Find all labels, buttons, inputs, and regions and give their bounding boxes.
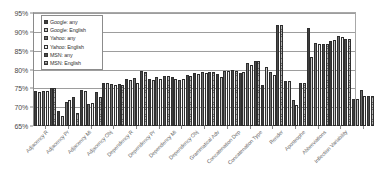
bar bbox=[106, 83, 109, 126]
bar-group bbox=[193, 13, 216, 126]
bar-group bbox=[352, 13, 374, 126]
bar bbox=[329, 41, 332, 126]
bar bbox=[231, 70, 234, 126]
bar bbox=[337, 36, 340, 126]
bar bbox=[318, 44, 321, 126]
bar bbox=[314, 43, 317, 126]
legend-swatch-icon bbox=[44, 45, 48, 49]
bar bbox=[360, 90, 363, 126]
bar bbox=[261, 85, 264, 126]
legend-label: MSN: English bbox=[50, 60, 81, 66]
x-label-slot: Adjacency R bbox=[34, 128, 55, 177]
bar bbox=[242, 72, 245, 126]
bar bbox=[292, 100, 295, 126]
bar bbox=[254, 61, 257, 126]
legend-label: MSN: any bbox=[50, 52, 72, 58]
y-tick-label: 65% bbox=[15, 123, 28, 130]
bar-group bbox=[238, 13, 261, 126]
bar bbox=[227, 71, 230, 126]
bar bbox=[87, 104, 90, 126]
bar bbox=[341, 37, 344, 126]
bar-group bbox=[125, 13, 148, 126]
bar bbox=[223, 71, 226, 126]
bar-group bbox=[261, 13, 284, 126]
legend-label: Yahoo: English bbox=[50, 44, 84, 50]
bar bbox=[239, 73, 242, 126]
y-tick-label: 85% bbox=[15, 47, 28, 54]
legend-item: MSN: any bbox=[44, 51, 100, 59]
legend-label: Google: English bbox=[50, 27, 86, 33]
legend-swatch-icon bbox=[44, 36, 48, 40]
bar bbox=[333, 40, 336, 126]
x-tick-mark bbox=[363, 126, 364, 129]
bar bbox=[352, 99, 355, 127]
bar bbox=[42, 91, 45, 126]
x-axis-labels: Adjacency RAdjacency PrAdjacency MiAdjac… bbox=[34, 128, 355, 177]
bar bbox=[307, 28, 310, 126]
bar bbox=[171, 77, 174, 126]
y-tick-label: 70% bbox=[15, 104, 28, 111]
bar bbox=[208, 72, 211, 126]
bar bbox=[152, 80, 155, 126]
bar bbox=[371, 96, 374, 126]
bar bbox=[197, 74, 200, 126]
legend-item: MSN: English bbox=[44, 59, 100, 67]
bar bbox=[65, 102, 68, 126]
bar bbox=[129, 80, 132, 126]
bar bbox=[367, 96, 370, 126]
y-axis: 95%90%85%80%75%70%65% bbox=[0, 0, 33, 132]
bar-group bbox=[216, 13, 239, 126]
x-label-slot: Concatenation Type bbox=[248, 128, 269, 177]
bar-group bbox=[102, 13, 125, 126]
bar-group bbox=[170, 13, 193, 126]
bar bbox=[288, 81, 291, 126]
bar bbox=[322, 44, 325, 126]
legend-swatch-icon bbox=[44, 20, 48, 24]
bar bbox=[118, 84, 121, 126]
bar bbox=[61, 116, 64, 126]
bar bbox=[125, 79, 128, 126]
y-tick-label: 80% bbox=[15, 66, 28, 73]
bar bbox=[276, 25, 279, 126]
bar bbox=[57, 111, 60, 126]
x-label-slot: Render bbox=[269, 128, 290, 177]
legend-swatch-icon bbox=[44, 61, 48, 65]
bar bbox=[201, 72, 204, 126]
bar bbox=[34, 91, 37, 126]
bar bbox=[246, 63, 249, 126]
bar bbox=[356, 99, 359, 126]
legend-swatch-icon bbox=[44, 53, 48, 57]
bar bbox=[220, 77, 223, 126]
bar-group bbox=[284, 13, 307, 126]
y-tick-label: 90% bbox=[15, 28, 28, 35]
legend-item: Google: any bbox=[44, 18, 100, 26]
bar-group bbox=[147, 13, 170, 126]
bar bbox=[310, 57, 313, 126]
bar bbox=[114, 85, 117, 126]
bar bbox=[363, 96, 366, 126]
bar bbox=[193, 73, 196, 126]
bar bbox=[265, 67, 268, 126]
bar bbox=[273, 75, 276, 126]
legend-item: Yahoo: English bbox=[44, 43, 100, 51]
bar bbox=[250, 65, 253, 126]
bar bbox=[84, 91, 87, 126]
legend-label: Yahoo: any bbox=[50, 35, 75, 41]
bar bbox=[295, 105, 298, 126]
bar bbox=[344, 39, 347, 126]
bar bbox=[163, 76, 166, 126]
y-tick-label: 75% bbox=[15, 85, 28, 92]
x-label-slot: Inflection Variability bbox=[334, 128, 355, 177]
bar bbox=[155, 77, 158, 126]
bar bbox=[38, 92, 41, 126]
bar bbox=[178, 80, 181, 126]
y-tick-label: 95% bbox=[15, 10, 28, 17]
bar bbox=[50, 88, 53, 126]
bar bbox=[159, 79, 162, 126]
bar bbox=[284, 81, 287, 126]
x-label-slot: Adjacency Pr bbox=[55, 128, 76, 177]
bar bbox=[182, 79, 185, 126]
bar bbox=[133, 78, 136, 126]
x-axis-tick-label: Render bbox=[268, 129, 284, 145]
